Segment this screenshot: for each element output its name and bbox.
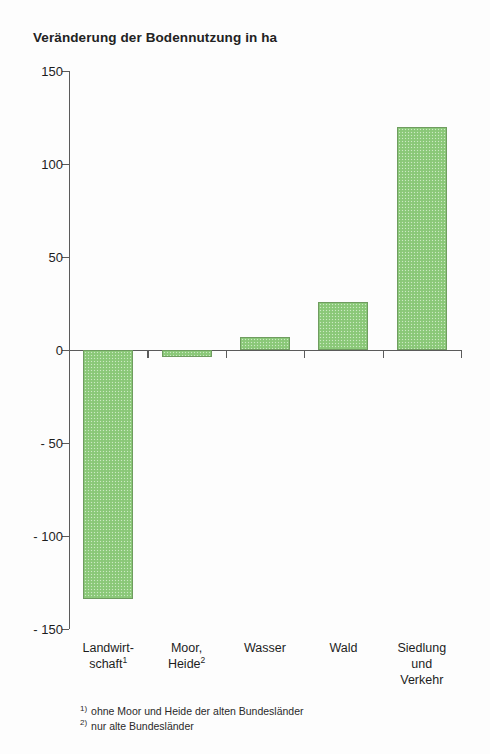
footnote-marker: 1)	[80, 704, 87, 713]
footnote-text: nur alte Bundesländer	[88, 720, 194, 732]
x-axis-tick	[304, 350, 305, 358]
bar	[162, 350, 212, 357]
y-axis-tick	[62, 629, 69, 630]
footnote-marker: 2	[201, 655, 206, 665]
footnote-marker: 2)	[80, 718, 87, 727]
bar	[83, 350, 133, 599]
bar	[397, 127, 447, 350]
footnote-text: ohne Moor und Heide der alten Bundesländ…	[88, 705, 303, 717]
x-axis-category-label: Wald	[298, 640, 388, 656]
x-axis-tick	[461, 350, 462, 358]
x-axis-category-label: Wasser	[220, 640, 310, 656]
footnote-item: 2) nur alte Bundesländer	[80, 719, 304, 734]
chart-figure: Veränderung der Bodennutzung in ha 15010…	[0, 0, 490, 754]
x-axis-tick	[226, 350, 227, 358]
y-axis-tick-label: 100	[41, 157, 63, 172]
x-axis-tick	[147, 350, 148, 358]
y-axis-tick	[62, 536, 69, 537]
bar	[318, 302, 368, 350]
footnotes: 1) ohne Moor und Heide der alten Bundesl…	[80, 704, 304, 733]
chart-title: Veränderung der Bodennutzung in ha	[33, 30, 277, 45]
y-axis-tick	[62, 164, 69, 165]
x-axis-category-label: Moor,Heide2	[141, 640, 231, 672]
y-axis-tick	[62, 257, 69, 258]
y-axis-tick-label: 0	[56, 343, 63, 358]
y-axis-tick-label: 50	[49, 250, 63, 265]
y-axis-tick	[62, 443, 69, 444]
x-axis-category-label: Landwirt-schaft1	[63, 640, 153, 672]
y-axis-tick-label: - 50	[41, 436, 63, 451]
y-axis-tick	[62, 71, 69, 72]
y-axis-tick	[62, 350, 69, 351]
plot-area: 150100500- 50- 100- 150	[69, 71, 461, 629]
bar	[240, 337, 290, 350]
footnote-item: 1) ohne Moor und Heide der alten Bundesl…	[80, 704, 304, 719]
y-axis-tick-label: - 150	[33, 622, 63, 637]
x-axis-tick	[383, 350, 384, 358]
x-axis-category-label: SiedlungundVerkehr	[377, 640, 467, 688]
y-axis-tick-label: 150	[41, 64, 63, 79]
y-axis-tick-label: - 100	[33, 529, 63, 544]
footnote-marker: 1	[123, 655, 128, 665]
